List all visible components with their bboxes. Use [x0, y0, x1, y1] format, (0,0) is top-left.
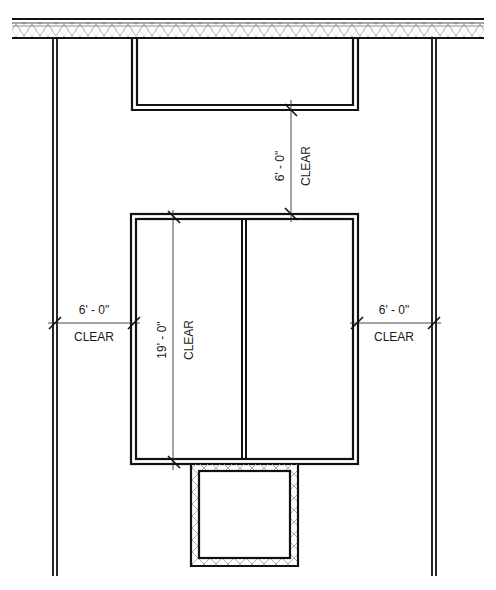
lower-hatched-box: [191, 464, 298, 566]
dimension-left-gap-note: CLEAR: [74, 330, 114, 344]
floor-plan-drawing: 6' - 0" CLEAR 6' - 0" CLEAR 6' - 0" CLEA…: [0, 0, 496, 590]
top-wall: [12, 19, 484, 38]
dimension-block-length-value: 19' - 0": [155, 321, 169, 358]
upper-room: [132, 38, 358, 110]
dimension-right-gap: [350, 317, 441, 329]
dimension-right-gap-note: CLEAR: [374, 330, 414, 344]
right-corridor-wall: [432, 38, 436, 576]
dimension-left-gap: [48, 317, 140, 329]
dimension-block-length-note: CLEAR: [182, 320, 196, 360]
dimension-left-gap-value: 6' - 0": [79, 303, 110, 317]
left-corridor-wall: [53, 38, 57, 576]
dimension-top-gap-note: CLEAR: [299, 146, 313, 186]
dimension-right-gap-value: 6' - 0": [379, 303, 410, 317]
dimension-top-gap-value: 6' - 0": [273, 151, 287, 182]
dimension-block-length: [168, 210, 180, 470]
